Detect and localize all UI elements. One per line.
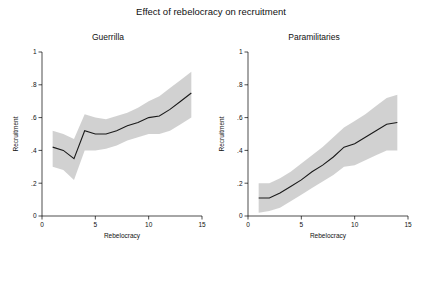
- panel-title-guerrilla: Guerrilla: [8, 32, 208, 42]
- y-axis-title: Recruitment: [218, 116, 225, 151]
- y-tick-label: 0: [239, 212, 243, 219]
- chart-svg-1: 0.2.4.6.81051015RebelocracyRecruitment: [214, 46, 414, 246]
- y-tick-label: .8: [237, 81, 243, 88]
- y-axis-title: Recruitment: [12, 116, 19, 151]
- y-tick-label: .2: [237, 180, 243, 187]
- panel-title-paramilitaries: Paramilitaries: [214, 32, 414, 42]
- x-tick-label: 15: [198, 221, 206, 228]
- y-tick-label: 1: [239, 48, 243, 55]
- y-tick-label: .2: [31, 180, 37, 187]
- figure-title: Effect of rebelocracy on recruitment: [0, 6, 422, 17]
- x-axis-title: Rebelocracy: [310, 232, 347, 240]
- y-tick-label: .8: [31, 81, 37, 88]
- x-tick-label: 0: [40, 221, 44, 228]
- y-tick-label: 1: [33, 48, 37, 55]
- x-tick-label: 5: [94, 221, 98, 228]
- y-tick-label: 0: [33, 212, 37, 219]
- panel-guerrilla: Guerrilla 0.2.4.6.81051015RebelocracyRec…: [8, 32, 208, 254]
- y-tick-label: .6: [31, 114, 37, 121]
- x-tick-label: 10: [145, 221, 153, 228]
- figure-root: Effect of rebelocracy on recruitment Gue…: [0, 0, 422, 286]
- x-tick-label: 15: [404, 221, 412, 228]
- x-tick-label: 10: [351, 221, 359, 228]
- x-tick-label: 5: [300, 221, 304, 228]
- x-tick-label: 0: [246, 221, 250, 228]
- y-tick-label: .6: [237, 114, 243, 121]
- plot-area-guerrilla: 0.2.4.6.81051015RebelocracyRecruitment: [8, 46, 208, 246]
- x-axis-title: Rebelocracy: [104, 232, 141, 240]
- confidence-band: [53, 72, 192, 180]
- confidence-band: [259, 95, 398, 213]
- chart-svg-0: 0.2.4.6.81051015RebelocracyRecruitment: [8, 46, 208, 246]
- y-tick-label: .4: [31, 147, 37, 154]
- plot-area-paramilitaries: 0.2.4.6.81051015RebelocracyRecruitment: [214, 46, 414, 246]
- y-tick-label: .4: [237, 147, 243, 154]
- panel-paramilitaries: Paramilitaries 0.2.4.6.81051015Rebelocra…: [214, 32, 414, 254]
